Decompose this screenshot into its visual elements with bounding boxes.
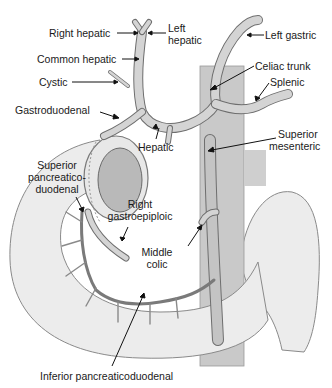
label-sup-pd-line1: Superior	[22, 159, 92, 171]
anatomy-figure: Right hepatic Left hepatic Left gastric …	[0, 0, 332, 388]
label-middle-colic-line2: colic	[132, 258, 182, 270]
label-cystic: Cystic	[39, 76, 68, 88]
label-superior-mesenteric-line1: Superior	[278, 128, 318, 140]
label-right-gastroepiploic-line1: Right	[105, 198, 175, 210]
label-left-hepatic-line2: hepatic	[168, 34, 202, 46]
label-sup-pd-line3: duodenal	[22, 183, 92, 195]
label-sup-pd-line2: pancreatico-	[22, 171, 92, 183]
label-middle-colic-line1: Middle	[132, 246, 182, 258]
label-hepatic: Hepatic	[138, 141, 174, 153]
label-superior-mesenteric-line2: mesenteric	[269, 140, 320, 152]
label-common-hepatic: Common hepatic	[37, 53, 116, 65]
label-right-gastroepiploic-line2: gastroepiploic	[105, 210, 175, 222]
label-splenic: Splenic	[270, 76, 304, 88]
label-celiac-trunk: Celiac trunk	[255, 60, 310, 72]
label-left-gastric: Left gastric	[265, 29, 316, 41]
label-left-hepatic-line1: Left	[168, 22, 186, 34]
label-gastroduodenal: Gastroduodenal	[15, 104, 90, 116]
aorta-side-branch	[244, 150, 266, 186]
label-inferior-pd: Inferior pancreaticoduodenal	[40, 370, 173, 382]
label-right-hepatic: Right hepatic	[49, 27, 110, 39]
